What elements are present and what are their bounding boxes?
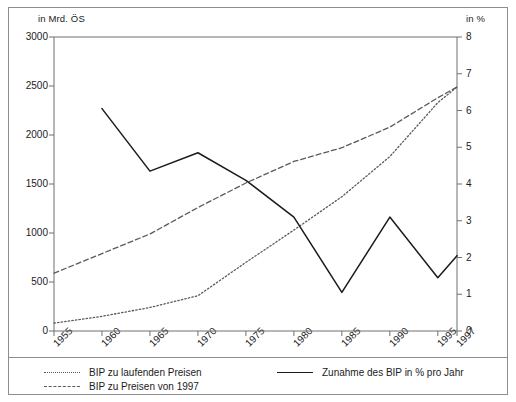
axis-lines (54, 37, 457, 331)
series-line-1 (54, 87, 457, 323)
series-line-3 (102, 109, 457, 293)
legend-label-zunahme-bip: Zunahme des BIP in % pro Jahr (322, 367, 464, 378)
legend-item-zunahme-bip: Zunahme des BIP in % pro Jahr (277, 367, 464, 378)
axis-tick-marks (49, 37, 462, 336)
chart-figure: in Mrd. ÖS in % 300025002000150010005000… (0, 0, 516, 402)
legend-item-bip-preise-1997: BIP zu Preisen von 1997 (44, 381, 199, 392)
data-series-lines (54, 87, 457, 323)
plot-area (0, 0, 516, 402)
legend-swatch-dotted-icon (44, 372, 80, 373)
legend-label-bip-laufende-preise: BIP zu laufenden Preisen (89, 367, 202, 378)
legend-swatch-solid-icon (277, 372, 313, 373)
legend-swatch-dashed-icon (44, 386, 80, 387)
legend-divider (9, 357, 507, 358)
legend-item-bip-laufende-preise: BIP zu laufenden Preisen (44, 367, 202, 378)
series-line-2 (54, 87, 457, 273)
legend-label-bip-preise-1997: BIP zu Preisen von 1997 (89, 381, 199, 392)
